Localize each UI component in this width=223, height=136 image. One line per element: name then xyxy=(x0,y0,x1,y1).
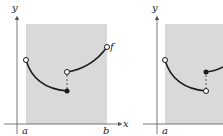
figure-2 xyxy=(143,18,223,134)
open-point-left xyxy=(163,58,168,63)
fig1-x-label: x xyxy=(123,119,129,129)
closed-point-jump xyxy=(65,89,70,94)
graphs xyxy=(0,0,223,136)
open-point-jump xyxy=(204,89,209,94)
figure-1 xyxy=(4,18,120,134)
fig2-a-label: a xyxy=(162,126,168,136)
shaded-region xyxy=(165,24,223,124)
fig2-y-label: y xyxy=(152,3,158,13)
open-point-left xyxy=(24,58,29,63)
fig1-b-label: b xyxy=(103,126,109,136)
closed-point-jump xyxy=(204,70,209,75)
fig1-f-label: f xyxy=(110,42,114,52)
fig1-a-label: a xyxy=(22,126,28,136)
open-point-jump xyxy=(65,70,70,75)
open-point-right xyxy=(105,45,110,50)
fig1-y-label: y xyxy=(12,3,18,13)
